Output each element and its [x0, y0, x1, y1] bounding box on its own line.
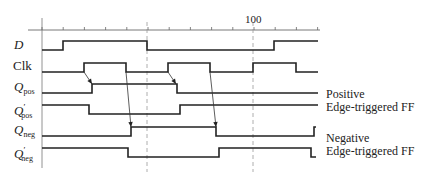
- waveform-d: [42, 41, 318, 50]
- q-pos-prime-sub: pos: [21, 111, 32, 120]
- waveform-clk: [42, 63, 318, 72]
- signal-label-q-neg-prime: Q′neg: [14, 143, 33, 166]
- legend-negative-line1: Negative: [326, 131, 369, 145]
- arrow-line: [126, 72, 131, 127]
- signal-label-d: D: [14, 38, 23, 52]
- arrow-line: [210, 72, 216, 127]
- q-neg-prime-sub: neg: [21, 154, 33, 163]
- q-pos-sub: pos: [23, 87, 34, 96]
- waveform-q--pos: [42, 105, 318, 114]
- waveforms: [42, 41, 318, 157]
- signal-label-q-pos: Qpos: [14, 80, 35, 99]
- waveform-q--neg: [42, 148, 316, 157]
- legend-negative-line2: Edge-triggered FF: [326, 144, 414, 158]
- arrowhead-icon: [171, 79, 176, 84]
- clk-label-text: Clk: [13, 58, 32, 73]
- d-label-text: D: [14, 37, 23, 52]
- signal-label-clk: Clk: [13, 59, 32, 73]
- dashed-reference-lines: [147, 22, 253, 172]
- signal-label-q-neg: Qneg: [14, 123, 35, 142]
- q-neg-sub: neg: [23, 130, 35, 139]
- signal-label-q-pos-prime: Q′pos: [14, 100, 32, 123]
- legend-positive-line2: Edge-triggered FF: [326, 100, 414, 114]
- legend-positive-line1: Positive: [326, 87, 365, 101]
- q-neg-main: Q: [14, 122, 23, 137]
- waveform-q-pos: [42, 84, 318, 93]
- causality-arrows: [84, 72, 218, 127]
- tick-label-100: 100: [245, 13, 262, 25]
- waveform-q-neg: [42, 127, 316, 136]
- q-pos-main: Q: [14, 79, 23, 94]
- arrowhead-icon: [87, 79, 92, 84]
